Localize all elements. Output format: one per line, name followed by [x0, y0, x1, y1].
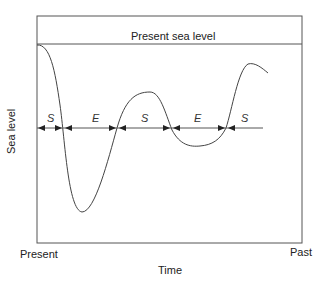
arrowhead-right-icon: [55, 125, 62, 131]
arrowhead-left-icon: [119, 125, 126, 131]
y-axis-label: Sea level: [5, 109, 17, 154]
arrowhead-left-icon: [65, 125, 72, 131]
arrowhead-left-icon: [228, 125, 235, 131]
present-sea-level-label: Present sea level: [131, 30, 215, 42]
segment-label: S: [241, 112, 248, 124]
arrowhead-right-icon: [109, 125, 116, 131]
x-start-label: Present: [20, 248, 58, 260]
segment-label: E: [92, 112, 99, 124]
segment-label: S: [47, 112, 54, 124]
segment-label: S: [141, 112, 148, 124]
arrowhead-left-icon: [173, 125, 180, 131]
x-end-label: Past: [290, 246, 312, 258]
diagram-frame: [37, 16, 302, 243]
arrowhead-right-icon: [163, 125, 170, 131]
sea-level-diagram: [0, 0, 320, 282]
arrowhead-left-icon: [38, 125, 45, 131]
x-axis-label: Time: [158, 264, 182, 276]
arrowhead-right-icon: [218, 125, 225, 131]
segment-label: E: [194, 112, 201, 124]
